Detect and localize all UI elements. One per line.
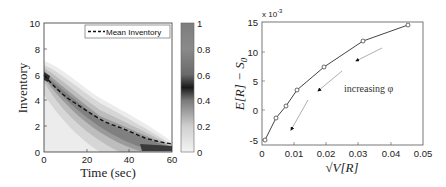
legend-label: Mean Inventory [106,28,161,37]
right-xtick: 0.03 [349,148,368,159]
right-axes [262,22,423,145]
annotation-increasing-phi: increasing φ [344,83,394,94]
density-heatmap [44,61,172,152]
right-ytick: 10 [247,47,258,58]
cbar-tick: 1 [197,18,202,29]
left-ytick: 10 [29,18,40,29]
left-ytick: 6 [35,70,40,81]
right-xtick: 0 [259,148,264,159]
left-xtick: 60 [167,154,178,165]
figure: 10 8 6 4 2 0 0 20 40 60 Time (sec) Inven… [0,0,446,187]
right-xtick: 0.01 [285,148,304,159]
right-xtick: 0.02 [317,148,336,159]
left-ytick: 0 [35,147,40,158]
right-ytick: 5 [253,76,258,87]
cbar-tick: 0.8 [197,44,210,55]
left-ylabel: Inventory [15,62,30,113]
right-xtick: 0.05 [414,148,433,159]
right-xlabel: √V[R] [325,160,358,175]
colorbar: 0 0.2 0.4 0.6 0.8 1 [181,18,210,158]
cbar-tick: 0 [197,147,202,158]
left-xtick: 40 [124,154,135,165]
left-xtick: 20 [82,154,93,165]
right-ytick: 15 [247,17,258,28]
right-ytick: 0 [253,105,258,116]
cbar-tick: 0.4 [197,95,210,106]
legend: Mean Inventory [85,25,170,38]
left-ytick: 8 [35,44,40,55]
cbar-tick: 0.6 [197,70,210,81]
y-multiplier: x 10-3 [262,8,283,19]
right-chart: increasing φ 15 10 5 0 -5 x 10-3 0 0.01 … [232,8,432,175]
left-chart: 10 8 6 4 2 0 0 20 40 60 Time (sec) Inven… [15,18,210,180]
left-xtick: 0 [41,154,46,165]
right-ylabel: E[R] − S0 [232,57,249,111]
cbar-tick: 0.2 [197,121,210,132]
right-xtick: 0.04 [382,148,401,159]
left-xlabel: Time (sec) [80,165,136,180]
left-ytick: 4 [35,95,40,106]
right-ytick: -5 [250,135,258,146]
left-ytick: 2 [35,121,40,132]
